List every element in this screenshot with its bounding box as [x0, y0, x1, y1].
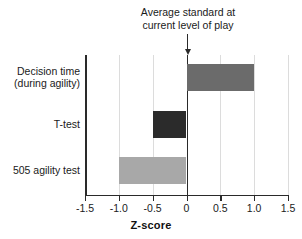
gridline — [254, 55, 255, 195]
y-axis-line — [85, 55, 87, 196]
tick-mark — [220, 196, 221, 201]
bar — [153, 111, 187, 138]
down-arrow-icon — [187, 34, 188, 55]
tick-mark — [85, 196, 86, 201]
category-label: T-test — [0, 118, 80, 131]
category-label: 505 agility test — [0, 164, 80, 177]
tick-mark — [187, 196, 188, 201]
x-axis-label: Z-score — [0, 219, 302, 231]
tick-mark — [153, 196, 154, 201]
chart-figure: Average standard at current level of pla… — [0, 0, 302, 239]
gridline — [288, 55, 289, 195]
tick-mark — [254, 196, 255, 201]
category-label: Decision time (during agility) — [0, 65, 80, 90]
tick-mark — [119, 196, 120, 201]
tick-label: 1.5 — [268, 202, 302, 214]
bar — [119, 157, 187, 184]
bar — [187, 64, 255, 91]
reference-annotation-text: Average standard at current level of pla… — [105, 6, 271, 32]
plot-area — [85, 55, 288, 195]
tick-mark — [288, 196, 289, 201]
